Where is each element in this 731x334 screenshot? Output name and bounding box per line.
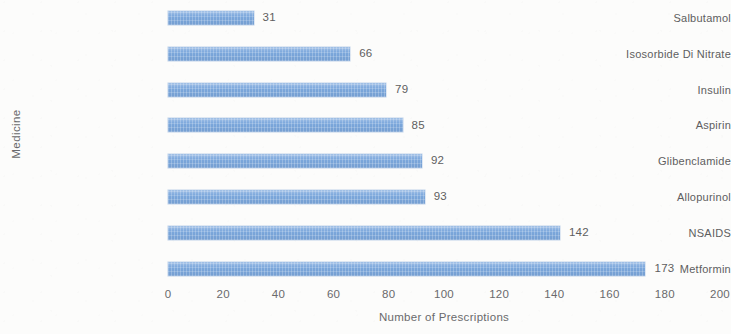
x-tick-label: 60 [312, 288, 356, 300]
bar [168, 11, 254, 25]
bar-row: 93 [168, 190, 447, 204]
bar-row: 92 [168, 154, 444, 168]
x-tick-label: 120 [477, 288, 521, 300]
bar [168, 47, 350, 61]
plot-area: SalbutamolIsosorbide Di NitrateInsulinAs… [0, 0, 731, 286]
bar-row: 142 [168, 226, 589, 240]
bar [168, 190, 425, 204]
x-tick-label: 0 [146, 288, 190, 300]
x-tick-label: 160 [588, 288, 632, 300]
x-tick-label: 40 [256, 288, 300, 300]
bar-value-label: 142 [569, 227, 589, 239]
bar [168, 226, 560, 240]
bar-value-label: 93 [434, 191, 447, 203]
x-tick-label: 140 [532, 288, 576, 300]
bar-row: 173 [168, 262, 675, 276]
bar-value-label: 92 [431, 155, 444, 167]
category-label: Insulin [581, 84, 731, 96]
x-tick-label: 80 [367, 288, 411, 300]
bar-value-label: 66 [359, 48, 372, 60]
bar-row: 85 [168, 118, 425, 132]
category-label: Isosorbide Di Nitrate [581, 48, 731, 60]
bar [168, 262, 645, 276]
x-tick-label: 100 [422, 288, 466, 300]
x-tick-label: 200 [698, 288, 731, 300]
bar-value-label: 85 [412, 120, 425, 132]
bar-value-label: 31 [263, 12, 276, 24]
category-label: Glibenclamide [581, 155, 731, 167]
category-label: Allopurinol [581, 191, 731, 203]
category-label: Aspirin [581, 119, 731, 131]
bar [168, 118, 403, 132]
bar [168, 83, 386, 97]
x-tick-label: 180 [643, 288, 687, 300]
bar-value-label: 173 [654, 263, 674, 275]
bar [168, 154, 422, 168]
category-label: NSAIDS [581, 227, 731, 239]
x-axis-title: Number of Prescriptions [168, 311, 720, 323]
bar-row: 66 [168, 47, 373, 61]
x-axis-tick-labels: 020406080100120140160180200 [0, 286, 731, 310]
bar-chart: Medicine SalbutamolIsosorbide Di Nitrate… [0, 0, 731, 334]
bar-row: 31 [168, 11, 276, 25]
bar-value-label: 79 [395, 84, 408, 96]
category-label: Salbutamol [581, 12, 731, 24]
bar-row: 79 [168, 83, 408, 97]
x-tick-label: 20 [201, 288, 245, 300]
